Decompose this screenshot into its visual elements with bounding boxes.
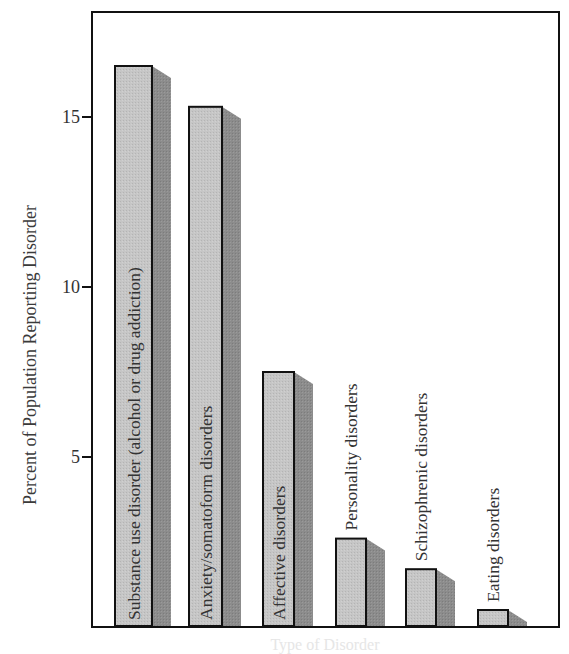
bar-label: Personality disorders: [341, 383, 361, 530]
y-tick-label: 10: [62, 277, 80, 297]
bar: Substance use disorder (alcohol or drug …: [115, 66, 171, 626]
bar-face: [336, 539, 366, 626]
bar-label: Affective disorders: [269, 486, 289, 620]
bar: Affective disorders: [263, 372, 313, 626]
bar-label: Anxiety/somatoform disorders: [196, 405, 216, 620]
bar-label: Substance use disorder (alcohol or drug …: [124, 267, 144, 620]
bar: Eating disorders: [478, 488, 527, 626]
y-axis: 51015: [62, 107, 92, 467]
bar-label: Eating disorders: [483, 488, 503, 602]
bar-shadow: [294, 372, 313, 626]
bar-shadow: [152, 66, 171, 626]
bar-shadow: [436, 569, 455, 626]
bar: Anxiety/somatoform disorders: [189, 107, 241, 626]
bars: Substance use disorder (alcohol or drug …: [115, 66, 527, 626]
y-tick-label: 15: [62, 107, 80, 127]
y-tick-label: 5: [71, 447, 80, 467]
bar: Personality disorders: [336, 383, 385, 626]
bar-label: Schizophrenic disorders: [411, 392, 431, 561]
bar-shadow: [366, 539, 385, 626]
bar-shadow: [222, 107, 241, 626]
bar-face: [406, 569, 436, 626]
bar-shadow: [508, 610, 527, 626]
bar-face: [478, 610, 508, 626]
bar: Schizophrenic disorders: [406, 392, 455, 626]
